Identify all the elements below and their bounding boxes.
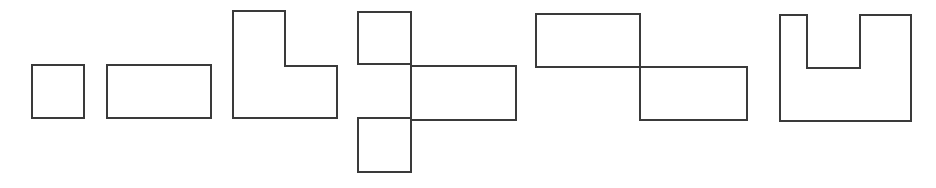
l-shape [233, 11, 337, 118]
z-step-shape [536, 14, 747, 120]
rectangle-shape [107, 65, 211, 118]
t-cross-shape [358, 12, 516, 172]
u-shape [780, 15, 911, 121]
square-shape [32, 65, 84, 118]
shapes-diagram [0, 0, 936, 188]
